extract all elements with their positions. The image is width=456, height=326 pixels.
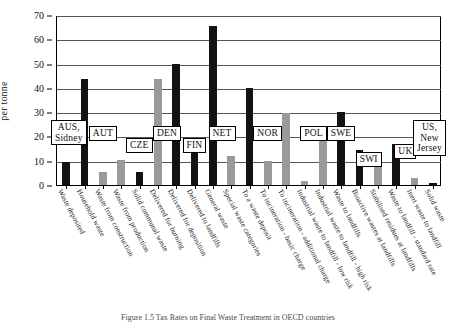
- y-tick-label: 20: [34, 132, 44, 142]
- country-label-box: NOR: [253, 126, 282, 141]
- y-tick-mark: [47, 113, 52, 114]
- y-tick-label: 60: [34, 35, 44, 45]
- bar: [117, 160, 125, 186]
- country-label-box: AUT: [89, 126, 117, 141]
- bar: [264, 161, 272, 185]
- y-axis-labels: 010203040506070: [0, 16, 52, 186]
- y-tick-mark: [47, 64, 52, 65]
- country-label-box: FIN: [183, 138, 207, 153]
- plot-frame: AUS, SidneyAUTCZEDENFINNETNORPOLSWESWIUK…: [56, 16, 441, 186]
- country-label-box: CZE: [126, 138, 153, 153]
- bar: [282, 113, 290, 185]
- y-tick-label: 30: [34, 108, 44, 118]
- gridline: [57, 40, 441, 41]
- y-tick-mark: [47, 40, 52, 41]
- bar: [227, 156, 235, 185]
- country-label-box: POL: [300, 126, 327, 141]
- plot-area: AUS, SidneyAUTCZEDENFINNETNORPOLSWESWIUK…: [56, 16, 441, 186]
- bar: [209, 26, 217, 185]
- x-axis-labels: Waste depositedHousehold wasteWaste from…: [56, 188, 441, 306]
- bar: [337, 112, 345, 185]
- figure-caption: Figure 1.5 Tax Rates on Final Waste Trea…: [0, 313, 456, 323]
- gridline: [57, 65, 441, 66]
- country-label-box: SWE: [327, 126, 356, 141]
- y-tick-label: 40: [34, 84, 44, 94]
- country-label-box: SWI: [356, 152, 382, 167]
- bar: [374, 166, 382, 185]
- bar: [411, 178, 419, 185]
- bar: [136, 172, 144, 185]
- bar: [99, 172, 107, 185]
- y-tick-label: 0: [39, 181, 44, 191]
- bar: [172, 64, 180, 185]
- y-tick-label: 70: [34, 11, 44, 21]
- country-label-box: AUS, Sidney: [51, 120, 87, 145]
- country-label-box: NET: [209, 126, 236, 141]
- y-tick-label: 50: [34, 60, 44, 70]
- y-tick-label: 10: [34, 157, 44, 167]
- y-tick-mark: [47, 16, 52, 17]
- bar: [191, 150, 199, 185]
- figure-waste-tax-rates: per tonne 010203040506070 AUS, SidneyAUT…: [0, 0, 456, 326]
- frame-right-line: [440, 16, 441, 185]
- y-tick-mark: [47, 186, 52, 187]
- gridline: [57, 16, 441, 17]
- country-label-box: US, New Jersey: [413, 120, 446, 156]
- y-tick-mark: [47, 88, 52, 89]
- bar: [62, 162, 70, 185]
- y-tick-mark: [47, 161, 52, 162]
- country-label-box: DEN: [153, 126, 181, 141]
- bar: [246, 88, 254, 185]
